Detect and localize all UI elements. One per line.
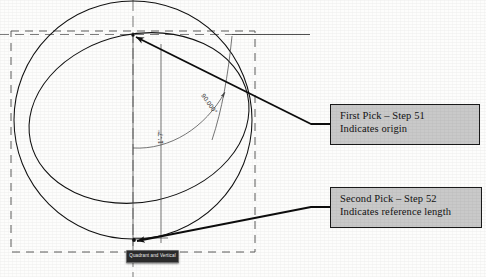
leader-second-pick (137, 207, 330, 241)
length-dimension-label: 1'-7" (157, 130, 164, 144)
callout-second-line1: Second Pick – Step 52 (340, 193, 481, 206)
object-snap-tooltip: Quadrant and Vertical (126, 250, 179, 263)
callout-second-pick: Second Pick – Step 52 Indicates referenc… (330, 187, 482, 228)
callout-first-pick: First Pick – Step 51 Indicates origin (330, 104, 480, 145)
leader-first-pick (136, 37, 330, 124)
callout-first-line1: First Pick – Step 51 (340, 110, 479, 123)
pick-point-reference (132, 238, 136, 242)
pick-point-origin (131, 33, 134, 36)
cad-figure: 90.000° 1'-7" Quadrant and Vertical Firs… (0, 0, 486, 277)
profile-ellipse (13, 13, 265, 223)
angle-leg (212, 36, 232, 140)
callout-first-line2: Indicates origin (340, 123, 479, 136)
callout-second-line2: Indicates reference length (340, 206, 481, 219)
